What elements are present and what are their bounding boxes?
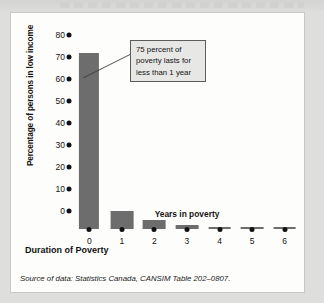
bar: [79, 53, 99, 229]
figure-source: Source of data: Statistics Canada, CANSI…: [20, 274, 230, 283]
callout-line-3: less than 1 year: [136, 67, 201, 78]
x-tick-label: 2: [152, 236, 157, 246]
bar-group: 0: [73, 53, 106, 229]
y-tick-label: 70: [35, 52, 65, 62]
x-axis-title: Years in poverty: [73, 209, 301, 219]
y-tick-label: 40: [35, 118, 65, 128]
bar-group: 4: [203, 53, 236, 229]
callout-line-1: 75 percent of: [136, 44, 201, 55]
y-tick-label: 60: [35, 74, 65, 84]
figure-title: Duration of Poverty: [25, 245, 109, 255]
y-tick-label: 80: [35, 30, 65, 40]
x-tick-label: 6: [282, 236, 287, 246]
bar-group: 6: [268, 53, 301, 229]
x-tick-dot: [282, 227, 287, 232]
callout-line-2: poverty lasts for: [136, 55, 201, 66]
y-tick-dot: [67, 209, 72, 214]
x-tick-dot: [250, 227, 255, 232]
chart-plot-area: Percentage of persons in low income 0102…: [11, 13, 306, 229]
y-axis-title: Percentage of persons in low income: [26, 11, 35, 181]
x-tick-label: 1: [119, 236, 124, 246]
x-tick-dot: [184, 227, 189, 232]
x-tick-dot: [217, 227, 222, 232]
bleed-text-row: [60, 2, 304, 8]
y-tick-label: 50: [35, 96, 65, 106]
y-tick-dot: [67, 99, 72, 104]
page-bleed-through: [0, 0, 324, 12]
x-tick-dot: [119, 227, 124, 232]
y-tick-dot: [67, 33, 72, 38]
bar-group: 5: [236, 53, 269, 229]
y-tick-dot: [67, 55, 72, 60]
x-tick-dot: [87, 227, 92, 232]
y-tick-label: 20: [35, 162, 65, 172]
callout-box: 75 percent of poverty lasts for less tha…: [130, 40, 206, 82]
y-tick-dot: [67, 143, 72, 148]
x-tick-dot: [152, 227, 157, 232]
y-tick-label: 10: [35, 184, 65, 194]
y-tick-dot: [67, 121, 72, 126]
y-tick-label: 0: [35, 206, 65, 216]
y-tick-label: 30: [35, 140, 65, 150]
x-tick-label: 5: [250, 236, 255, 246]
y-tick-dot: [67, 165, 72, 170]
x-tick-label: 4: [217, 236, 222, 246]
y-tick-dot: [67, 187, 72, 192]
y-tick-dot: [67, 77, 72, 82]
x-tick-label: 3: [185, 236, 190, 246]
figure-card: Percentage of persons in low income 0102…: [10, 12, 305, 293]
